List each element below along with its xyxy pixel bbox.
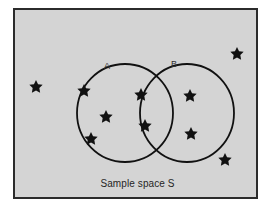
circle-b [140,64,234,162]
figure-root: A B Sample space S [0,0,271,213]
star-icon [99,110,112,123]
set-label-a: A [104,62,110,71]
star-icon [218,153,231,166]
venn-diagram [15,10,258,199]
sample-space-caption: Sample space S [15,178,258,189]
set-label-b: B [171,60,177,69]
star-icon [230,47,243,60]
diagram-frame: A B Sample space S [13,8,258,199]
circle-a [77,64,173,162]
star-icon [184,127,197,140]
star-icon [183,89,196,102]
set-circles [77,64,234,162]
star-icon [29,80,42,93]
